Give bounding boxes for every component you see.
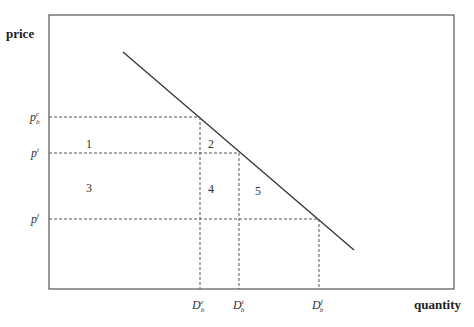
price-label-pf: pf [30,212,40,226]
quantity-label-dtb: Dtb [232,298,245,314]
region-4-label: 4 [208,182,214,196]
x-axis-label: quantity [414,297,461,312]
region-1-label: 1 [86,137,92,151]
plot-frame [49,15,454,289]
price-label-pt: pt [30,146,40,160]
quantity-label-dcb: Dcb [191,298,205,314]
price-quantity-diagram: price quantity pcb pt pf Dcb Dtb Dfb 1 2… [0,0,474,327]
y-axis-label: price [6,26,34,41]
quantity-label-dfb: Dfb [311,298,324,314]
region-3-label: 3 [86,181,92,195]
price-label-pcb: pcb [29,110,40,126]
region-2-label: 2 [208,137,214,151]
region-5-label: 5 [255,184,261,198]
